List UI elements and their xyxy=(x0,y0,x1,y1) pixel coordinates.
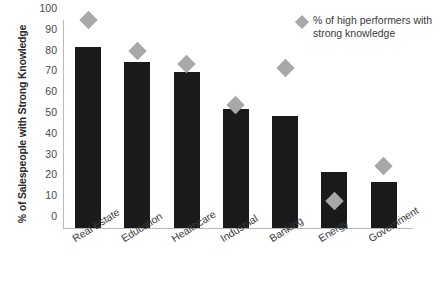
bar-group xyxy=(263,20,307,228)
plot-area: 0102030405060708090100 xyxy=(63,20,408,228)
y-axis-tick-label: 10 xyxy=(23,189,57,201)
diamond-marker-icon xyxy=(276,59,294,77)
y-axis-tick-label: 0 xyxy=(23,210,57,222)
bar xyxy=(124,62,150,228)
bar-chart: % of Salespeople with Strong Knowledge 0… xyxy=(0,0,444,290)
chart-legend: % of high performers with strong knowled… xyxy=(297,14,444,39)
diamond-marker-icon xyxy=(375,156,393,174)
bar-group xyxy=(312,20,356,228)
clipped-caption xyxy=(22,286,422,290)
y-axis-tick-label: 100 xyxy=(23,2,57,14)
y-axis-tick-label: 40 xyxy=(23,127,57,139)
bar xyxy=(272,116,298,228)
y-axis-tick-label: 20 xyxy=(23,168,57,180)
bar-group xyxy=(362,20,406,228)
legend-label: % of high performers with strong knowled… xyxy=(313,14,444,39)
y-axis-tick-label: 80 xyxy=(23,44,57,56)
y-axis-tick-label: 50 xyxy=(23,106,57,118)
bar xyxy=(75,47,101,228)
bar-group xyxy=(66,20,110,228)
bar xyxy=(223,109,249,228)
y-axis-tick-label: 90 xyxy=(23,23,57,35)
bar-group xyxy=(115,20,159,228)
bar-group xyxy=(165,20,209,228)
y-axis-tick-label: 30 xyxy=(23,148,57,160)
bar xyxy=(174,72,200,228)
diamond-marker-icon xyxy=(128,42,146,60)
y-axis-tick-label: 60 xyxy=(23,85,57,97)
diamond-marker-icon xyxy=(177,54,195,72)
bar-group xyxy=(214,20,258,228)
y-axis-tick-label: 70 xyxy=(23,64,57,76)
diamond-marker-icon xyxy=(79,11,97,29)
diamond-marker-icon xyxy=(295,15,309,29)
